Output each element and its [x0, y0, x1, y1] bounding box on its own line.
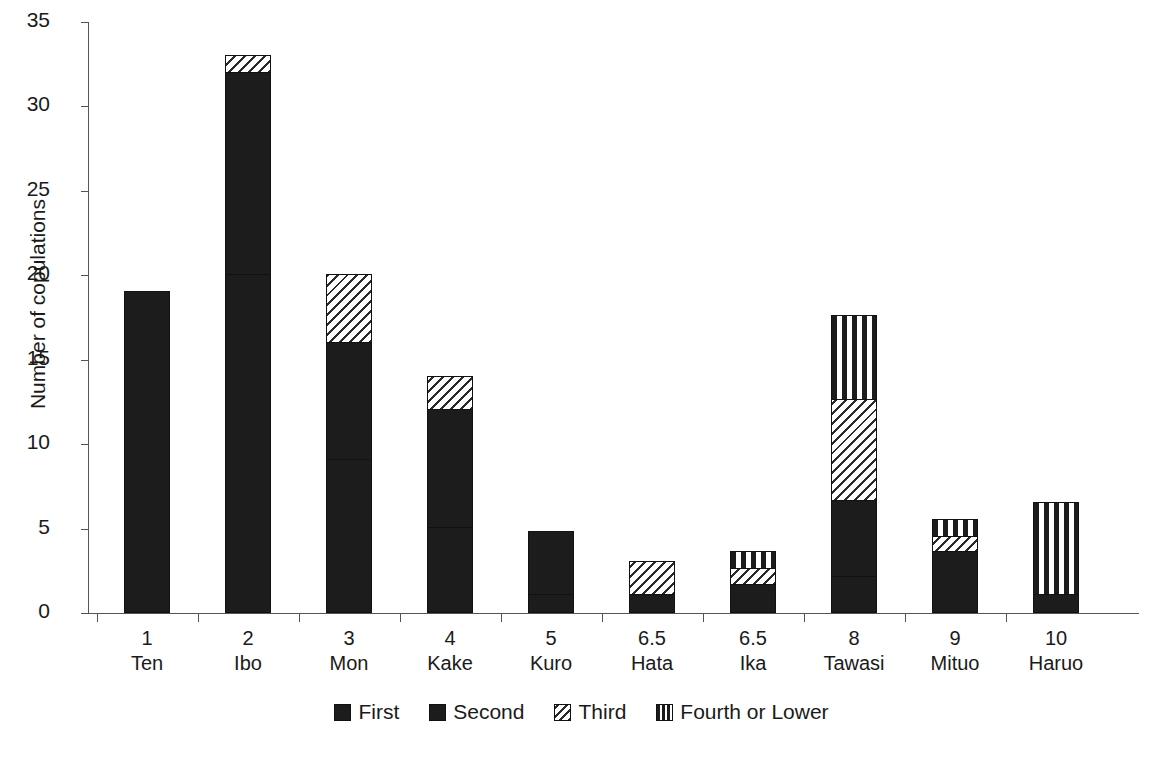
x-category-kuro: 5Kuro — [501, 626, 601, 676]
x-category-rank: 8 — [804, 626, 904, 651]
y-tick-0 — [81, 613, 89, 614]
y-tick-label-5: 5 — [6, 515, 50, 539]
legend-item-fourth[interactable]: Fourth or Lower — [656, 700, 828, 724]
stacked-bar[interactable] — [326, 274, 372, 613]
legend-label-second: Second — [453, 700, 524, 724]
bar-segment-first[interactable] — [933, 552, 977, 612]
x-category-rank: 2 — [198, 626, 298, 651]
x-category-rank: 6.5 — [602, 626, 702, 651]
x-category-tawasi: 8Tawasi — [804, 626, 904, 676]
x-category-name: Ika — [703, 651, 803, 676]
x-tick-4 — [400, 614, 401, 622]
x-category-rank: 9 — [905, 626, 1005, 651]
legend-item-second[interactable]: Second — [429, 700, 524, 724]
bar-segment-first[interactable] — [832, 577, 876, 612]
legend-item-first[interactable]: First — [334, 700, 399, 724]
bar-segment-first[interactable] — [226, 275, 270, 612]
stacked-bar[interactable] — [427, 376, 473, 613]
legend-swatch-third-icon — [554, 704, 571, 721]
x-tick-7 — [703, 614, 704, 622]
x-category-name: Kake — [400, 651, 500, 676]
stacked-bar[interactable] — [1033, 502, 1079, 613]
stacked-bar[interactable] — [932, 519, 978, 613]
x-category-rank: 4 — [400, 626, 500, 651]
x-category-name: Kuro — [501, 651, 601, 676]
x-tick-1 — [97, 614, 98, 622]
bar-segment-fourth[interactable] — [1034, 503, 1078, 595]
bar-segment-first[interactable] — [630, 595, 674, 612]
bar-segment-third[interactable] — [630, 562, 674, 595]
stacked-bar[interactable] — [730, 551, 776, 613]
bar-segment-first[interactable] — [327, 460, 371, 612]
x-category-mituo: 9Mituo — [905, 626, 1005, 676]
x-tick-3 — [299, 614, 300, 622]
x-category-name: Haruo — [1006, 651, 1106, 676]
bar-segment-second[interactable] — [226, 73, 270, 275]
stacked-bar[interactable] — [528, 531, 574, 613]
x-category-kake: 4Kake — [400, 626, 500, 676]
legend-item-third[interactable]: Third — [554, 700, 626, 724]
legend-swatch-second-icon — [429, 704, 446, 721]
x-category-rank: 1 — [97, 626, 197, 651]
bar-segment-first[interactable] — [731, 585, 775, 612]
chart-page: Number of copulations 05101520253035 1Te… — [0, 0, 1163, 764]
x-tick-6 — [602, 614, 603, 622]
bar-segment-third[interactable] — [428, 377, 472, 411]
bar-segment-first[interactable] — [529, 595, 573, 612]
bar-segment-third[interactable] — [731, 569, 775, 586]
bar-segment-fourth[interactable] — [731, 552, 775, 569]
bar-segment-fourth[interactable] — [933, 520, 977, 537]
bar-segment-first[interactable] — [1034, 595, 1078, 612]
bar-segment-third[interactable] — [933, 537, 977, 552]
x-category-name: Hata — [602, 651, 702, 676]
chart-legend: First Second Third Fourth or Lower — [0, 700, 1163, 724]
x-tick-2 — [198, 614, 199, 622]
x-category-rank: 10 — [1006, 626, 1106, 651]
x-category-ika: 6.5Ika — [703, 626, 803, 676]
x-axis-line — [88, 613, 1139, 614]
x-category-ten: 1Ten — [97, 626, 197, 676]
x-category-name: Tawasi — [804, 651, 904, 676]
bar-segment-second[interactable] — [832, 501, 876, 577]
bar-segment-third[interactable] — [327, 275, 371, 342]
plot-area — [88, 22, 1138, 613]
x-category-rank: 6.5 — [703, 626, 803, 651]
legend-label-first: First — [358, 700, 399, 724]
stacked-bar[interactable] — [629, 561, 675, 613]
x-tick-9 — [905, 614, 906, 622]
x-category-name: Ibo — [198, 651, 298, 676]
y-tick-label-15: 15 — [6, 346, 50, 370]
x-category-name: Mon — [299, 651, 399, 676]
x-category-rank: 3 — [299, 626, 399, 651]
legend-swatch-first-icon — [334, 704, 351, 721]
stacked-bar[interactable] — [124, 291, 170, 613]
bar-segment-third[interactable] — [226, 56, 270, 73]
x-tick-8 — [804, 614, 805, 622]
y-tick-label-20: 20 — [6, 261, 50, 285]
bar-segment-second[interactable] — [327, 343, 371, 461]
bar-segment-fourth[interactable] — [832, 316, 876, 400]
x-tick-5 — [501, 614, 502, 622]
y-tick-label-35: 35 — [6, 8, 50, 32]
x-category-ibo: 2Ibo — [198, 626, 298, 676]
bar-segment-third[interactable] — [832, 400, 876, 501]
x-category-name: Ten — [97, 651, 197, 676]
stacked-bar[interactable] — [831, 315, 877, 613]
y-tick-label-10: 10 — [6, 430, 50, 454]
x-category-haruo: 10Haruo — [1006, 626, 1106, 676]
legend-label-fourth: Fourth or Lower — [680, 700, 828, 724]
legend-label-third: Third — [578, 700, 626, 724]
x-category-name: Mituo — [905, 651, 1005, 676]
y-tick-label-25: 25 — [6, 177, 50, 201]
x-category-mon: 3Mon — [299, 626, 399, 676]
x-tick-10 — [1006, 614, 1007, 622]
bar-segment-first[interactable] — [125, 292, 169, 612]
stacked-bar[interactable] — [225, 55, 271, 613]
legend-swatch-fourth-icon — [656, 704, 673, 721]
x-category-rank: 5 — [501, 626, 601, 651]
y-tick-label-0: 0 — [6, 599, 50, 623]
bar-segment-second[interactable] — [529, 532, 573, 595]
y-tick-label-30: 30 — [6, 92, 50, 116]
bar-segment-first[interactable] — [428, 528, 472, 612]
bar-segment-second[interactable] — [428, 410, 472, 528]
